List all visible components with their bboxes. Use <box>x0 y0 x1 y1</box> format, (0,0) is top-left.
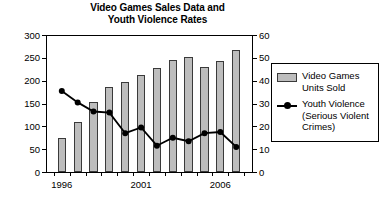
line-data-point <box>154 143 160 149</box>
line-data-point <box>106 110 112 116</box>
legend-label-line-3: Crimes) <box>302 121 335 132</box>
line-series <box>0 0 270 206</box>
line-data-point <box>202 130 208 136</box>
legend-label-line-2: Units Sold <box>302 82 345 93</box>
legend-label-youth-violence: Youth Violence (Serious Violent Crimes) <box>302 98 382 133</box>
bar-swatch-icon <box>277 73 297 82</box>
legend: Video Games Units Sold Youth Violence (S… <box>271 63 379 142</box>
line-data-point <box>59 88 65 94</box>
line-data-point <box>233 144 239 150</box>
legend-label-line-1: Youth Violence <box>302 98 365 109</box>
legend-label-video-games: Video Games Units Sold <box>302 70 382 93</box>
line-data-point <box>217 129 223 135</box>
legend-label-line-1: Video Games <box>302 70 359 81</box>
line-data-point <box>75 99 81 105</box>
line-data-point <box>186 138 192 144</box>
line-data-point <box>170 135 176 141</box>
line-data-point <box>122 130 128 136</box>
line-data-point <box>138 125 144 131</box>
chart-container: Video Games Sales Data and Youth Violenc… <box>0 0 383 206</box>
legend-label-line-2: (Serious Violent <box>302 110 369 121</box>
line-data-point <box>91 109 97 115</box>
plot-area: 050100150200250300 0102030405060 1996200… <box>0 0 270 206</box>
line-path <box>62 91 236 147</box>
line-marker-dot-icon <box>284 102 291 109</box>
